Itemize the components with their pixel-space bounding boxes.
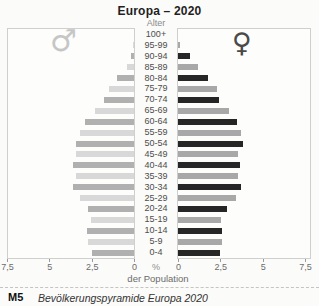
pyramid-row: 5-9	[7, 236, 311, 247]
percent-label: %	[134, 262, 178, 272]
male-bar	[109, 86, 134, 92]
age-axis-label: Alter	[134, 18, 178, 28]
male-bar	[92, 250, 134, 256]
age-label: 70-74	[134, 95, 178, 104]
pyramid-row: 35-39	[7, 171, 311, 182]
pyramid-row: 90-94	[7, 51, 311, 62]
female-bar	[178, 162, 240, 168]
pyramid-row: 95-99	[7, 40, 311, 51]
female-bar	[178, 173, 238, 179]
pyramid-row: 70-74	[7, 94, 311, 105]
pyramid-row: 80-84	[7, 73, 311, 84]
age-label: 5-9	[134, 237, 178, 246]
male-bar	[91, 217, 134, 223]
female-bar	[178, 239, 222, 245]
female-bar	[178, 108, 229, 114]
male-bar	[104, 97, 134, 103]
age-label: 90-94	[134, 52, 178, 61]
age-label: 40-44	[134, 161, 178, 170]
age-label: 45-49	[134, 150, 178, 159]
age-label: 100+	[134, 30, 178, 39]
age-label: 60-64	[134, 117, 178, 126]
axis-tick-label: 2,5	[215, 262, 228, 272]
female-bar	[178, 75, 208, 81]
age-label: 15-19	[134, 215, 178, 224]
caption-text: Bevölkerungspyramide Europa 2020	[38, 292, 208, 304]
pyramid-row: 0-4	[7, 247, 311, 258]
pyramid-row: 75-79	[7, 84, 311, 95]
female-bar	[178, 184, 241, 190]
female-bar	[178, 228, 222, 234]
female-bar	[178, 64, 198, 70]
age-label: 35-39	[134, 172, 178, 181]
male-bar	[73, 162, 134, 168]
pyramid-rows: 100+95-9990-9485-8980-8475-7970-7465-696…	[7, 29, 311, 258]
age-label: 55-59	[134, 128, 178, 137]
male-bar	[76, 173, 134, 179]
female-bar	[178, 130, 241, 136]
male-bar	[76, 151, 134, 157]
female-bar	[178, 53, 190, 59]
male-bar	[80, 195, 134, 201]
axis-tick-label: 2,5	[86, 262, 99, 272]
pyramid-row: 30-34	[7, 182, 311, 193]
pyramid-row: 20-24	[7, 204, 311, 215]
male-bar	[88, 239, 134, 245]
pyramid-row: 60-64	[7, 116, 311, 127]
female-bar	[178, 217, 221, 223]
age-label: 0-4	[134, 248, 178, 257]
male-bar	[87, 228, 134, 234]
axis-tick-label: 5	[261, 262, 266, 272]
age-label: 50-54	[134, 139, 178, 148]
axis-tick-label: 5	[47, 262, 52, 272]
male-bar	[73, 184, 134, 190]
age-label: 80-84	[134, 74, 178, 83]
female-bar	[178, 86, 217, 92]
axis-tick-label: 7,5	[299, 262, 312, 272]
male-bar	[95, 108, 134, 114]
male-bar	[88, 206, 134, 212]
x-axis-title: der Population	[106, 273, 210, 284]
female-bar	[178, 42, 180, 48]
pyramid-row: 55-59	[7, 127, 311, 138]
axis-tick-label: 7,5	[1, 262, 14, 272]
male-bar	[80, 130, 134, 136]
age-label: 10-14	[134, 226, 178, 235]
pyramid-row: 40-44	[7, 160, 311, 171]
pyramid-row: 100+	[7, 29, 311, 40]
age-label: 75-79	[134, 84, 178, 93]
age-label: 95-99	[134, 41, 178, 50]
caption-tag: M5	[8, 291, 23, 303]
pyramid-row: 10-14	[7, 225, 311, 236]
caption-divider	[0, 287, 319, 288]
female-bar	[178, 151, 238, 157]
pyramid-row: 25-29	[7, 193, 311, 204]
female-bar	[178, 141, 243, 147]
age-label: 85-89	[134, 63, 178, 72]
pyramid-row: 65-69	[7, 105, 311, 116]
pyramid-row: 45-49	[7, 149, 311, 160]
age-label: 25-29	[134, 194, 178, 203]
female-bar	[178, 250, 220, 256]
female-bar	[178, 206, 227, 212]
age-label: 20-24	[134, 204, 178, 213]
pyramid-row: 15-19	[7, 214, 311, 225]
chart-title: Europa – 2020	[0, 4, 319, 18]
pyramid-row: 85-89	[7, 62, 311, 73]
pyramid-row: 50-54	[7, 138, 311, 149]
male-bar	[127, 64, 134, 70]
female-bar	[178, 195, 236, 201]
male-bar	[117, 75, 134, 81]
population-pyramid-figure: Europa – 2020 Alter ♂ ♀ 100+95-9990-9485…	[0, 0, 319, 306]
female-bar	[178, 97, 219, 103]
age-label: 65-69	[134, 106, 178, 115]
male-bar	[85, 119, 134, 125]
male-bar	[76, 141, 134, 147]
female-bar	[178, 119, 237, 125]
age-label: 30-34	[134, 183, 178, 192]
